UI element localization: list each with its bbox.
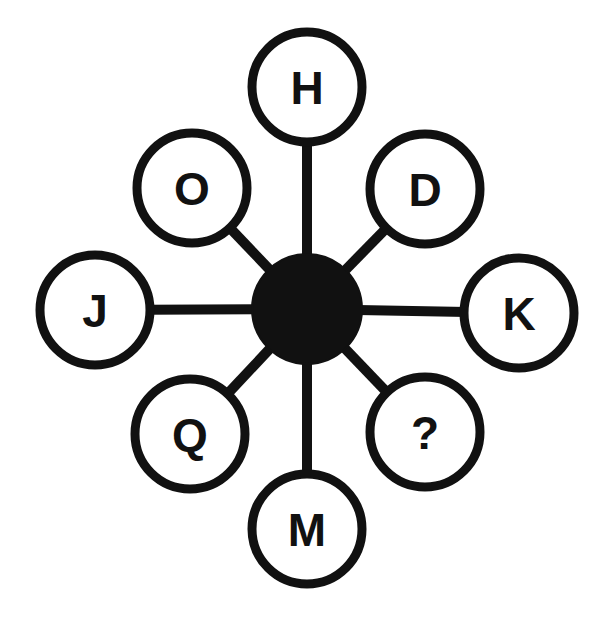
spoke-j (147, 309, 256, 310)
node-o[interactable]: O (137, 133, 247, 243)
node-q[interactable]: Q (135, 379, 245, 489)
node-k[interactable]: K (464, 258, 574, 368)
hub-group (252, 254, 362, 364)
node-label-d: D (408, 164, 441, 216)
node-label-m: M (288, 504, 326, 556)
node-label-j: J (82, 285, 108, 337)
node-m[interactable]: M (252, 474, 362, 584)
node-label-h: H (290, 62, 323, 114)
node-label-o: O (174, 163, 210, 215)
node-label-k: K (502, 288, 535, 340)
node-unknown[interactable]: ? (370, 377, 480, 487)
node-label-unknown: ? (411, 407, 439, 459)
hub-node[interactable] (252, 254, 362, 364)
node-label-q: Q (172, 409, 208, 461)
puzzle-canvas: HDK?MQJO (0, 0, 599, 620)
spoke-o (228, 226, 272, 272)
spoke-unknown (342, 346, 389, 395)
node-d[interactable]: D (370, 134, 480, 244)
node-h[interactable]: H (252, 32, 362, 142)
node-j[interactable]: J (40, 255, 150, 365)
spoke-d (343, 226, 389, 273)
spoke-k (358, 310, 467, 312)
letter-wheel-diagram: HDK?MQJO (0, 0, 599, 620)
spoke-q (226, 346, 273, 396)
